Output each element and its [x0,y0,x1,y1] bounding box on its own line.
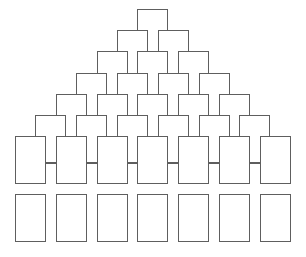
connector-line [128,163,137,164]
large-box-7 [260,136,291,184]
connector-line [46,163,56,164]
bottom-box-5 [178,194,209,242]
bottom-box-1 [15,194,46,242]
connector-line [168,163,178,164]
large-box-6 [219,136,250,184]
large-box-3 [97,136,128,184]
large-box-5 [178,136,209,184]
connector-line [87,163,97,164]
connector-line [209,163,219,164]
bottom-box-4 [137,194,168,242]
connector-line [250,163,260,164]
bottom-box-7 [260,194,291,242]
bottom-box-3 [97,194,128,242]
bottom-box-2 [56,194,87,242]
large-box-1 [15,136,46,184]
box-pyramid-diagram [0,0,306,257]
large-box-2 [56,136,87,184]
large-box-4 [137,136,168,184]
bottom-box-6 [219,194,250,242]
